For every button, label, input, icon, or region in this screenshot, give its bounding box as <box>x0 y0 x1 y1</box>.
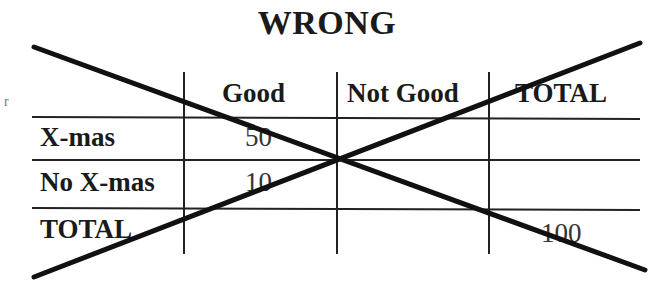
cross-out-x-icon <box>0 0 654 290</box>
